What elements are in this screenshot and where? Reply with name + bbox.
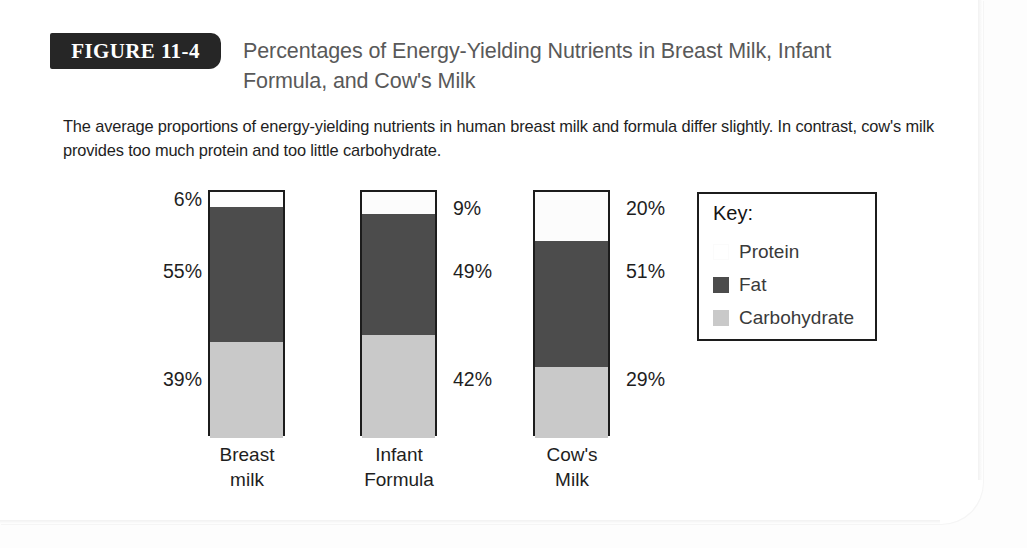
bar-caption-line-1: Breast [167,442,327,467]
figure-page: FIGURE 11-4 Percentages of Energy-Yieldi… [0,0,1027,548]
bar-caption-line-2: milk [167,467,327,492]
bar-caption-line-2: Formula [319,467,479,492]
bar-caption-cows-milk: Cow's Milk [492,442,652,492]
data-label-fat: 51% [626,260,665,283]
bar-segment-fat [362,214,435,335]
bar-caption-line-2: Milk [492,467,652,492]
legend-title: Key: [713,202,753,225]
legend-swatch-fat-icon [713,277,729,293]
bar-segment-carbohydrate [210,342,283,438]
bar-caption-infant-formula: Infant Formula [319,442,479,492]
bar-segment-fat [210,207,283,342]
bar-segment-fat [535,241,608,367]
chart-legend: Key: Protein Fat Carbohydrate [697,192,877,341]
data-label-fat: 55% [128,260,202,283]
bar-segment-protein [362,192,435,214]
data-label-protein: 9% [453,197,481,220]
bar-segment-protein [535,192,608,241]
bar-segment-carbohydrate [535,367,608,438]
legend-swatch-protein-icon [713,244,729,260]
data-label-fat: 49% [453,260,492,283]
data-label-protein: 6% [128,188,202,211]
legend-label-fat: Fat [739,271,766,299]
bar-cows-milk [533,190,610,436]
data-label-protein: 20% [626,197,665,220]
legend-swatch-carbohydrate-icon [713,310,729,326]
bar-breast-milk [208,190,285,436]
stacked-bar-chart: 6% 55% 39% Breast milk 9% 49% 42% Infant… [0,0,983,524]
data-label-carbohydrate: 39% [128,368,202,391]
bar-infant-formula [360,190,437,436]
bar-caption-breast-milk: Breast milk [167,442,327,492]
legend-label-carbohydrate: Carbohydrate [739,304,854,332]
bar-caption-line-1: Cow's [492,442,652,467]
bar-caption-line-1: Infant [319,442,479,467]
legend-label-protein: Protein [739,238,799,266]
bar-segment-protein [210,192,283,207]
data-label-carbohydrate: 42% [453,368,492,391]
data-label-carbohydrate: 29% [626,368,665,391]
bar-segment-carbohydrate [362,335,435,438]
